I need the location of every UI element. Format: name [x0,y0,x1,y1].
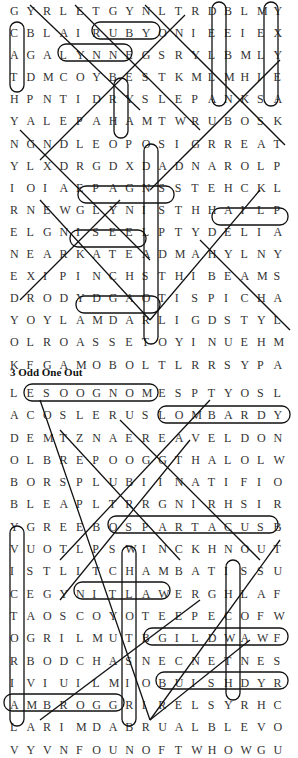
grid-letter: B [125,716,141,738]
grid-letter: O [26,309,42,331]
grid-letter: E [208,650,224,672]
grid-letter: Y [59,583,75,605]
grid-letter: L [10,716,26,738]
grid-letter: K [191,538,207,560]
grid-letter: S [224,309,240,331]
grid-letter: C [175,650,191,672]
grid-letter: Y [224,382,240,404]
grid-letter: H [224,177,240,199]
grid-letter: A [43,44,59,66]
grid-letter: U [241,516,257,538]
grid-letter: I [191,22,207,44]
grid-letter: H [208,243,224,265]
grid-letter: I [224,287,240,309]
grid-letter: I [191,672,207,694]
grid-letter: R [241,404,257,426]
grid-letter: S [59,404,75,426]
grid-letter: I [175,287,191,309]
grid-letter: W [224,627,240,649]
grid-letter: A [109,427,125,449]
grid-letter: G [26,516,42,538]
grid-letter: L [59,309,75,331]
grid-letter: A [208,449,224,471]
grid-letter: A [257,133,273,155]
grid-letter: A [92,243,108,265]
grid-letter: O [76,66,92,88]
grid-letter: O [241,155,257,177]
grid-letter: G [26,133,42,155]
grid-letter: E [224,221,240,243]
grid-letter: A [241,627,257,649]
grid-letter: S [257,560,273,582]
grid-letter: E [158,605,174,627]
grid-letter: R [142,309,158,331]
grid-letter: B [109,354,125,376]
grid-letter: H [125,265,141,287]
grid-letter: T [10,66,26,88]
grid-letter: D [208,627,224,649]
grid-letter: L [76,538,92,560]
grid-letter: Y [257,672,273,694]
grid-letter: P [59,265,75,287]
grid-letter: N [274,427,290,449]
grid-letter: L [92,471,108,493]
grid-letter: E [241,133,257,155]
grid-letter: X [125,155,141,177]
grid-letter: N [43,88,59,110]
grid-letter: O [241,538,257,560]
grid-letter: H [224,583,240,605]
grid-letter: E [125,44,141,66]
grid-letter: I [10,560,26,582]
grid-letter: Y [191,221,207,243]
grid-letter: G [191,133,207,155]
grid-letter: H [208,739,224,758]
grid-letter: C [10,583,26,605]
grid-letter: L [26,221,42,243]
grid-letter: B [125,22,141,44]
grid-letter: E [224,265,240,287]
grid-letter: W [175,110,191,132]
grid-letter: M [92,309,108,331]
grid-letter: M [142,382,158,404]
grid-letter: H [92,650,108,672]
grid-letter: H [109,110,125,132]
grid-letter: A [26,605,42,627]
grid-letter: V [26,672,42,694]
grid-letter: O [224,739,240,758]
grid-letter: P [191,382,207,404]
grid-letter: G [109,694,125,716]
grid-letter: S [142,88,158,110]
grid-letter: V [257,716,273,738]
grid-letter: C [274,694,290,716]
grid-letter: S [43,382,59,404]
grid-letter: Y [92,66,108,88]
grid-letter: T [274,133,290,155]
grid-letter: R [43,0,59,22]
grid-letter: B [109,66,125,88]
grid-letter: R [59,694,75,716]
grid-letter: B [224,110,240,132]
grid-letter: Y [125,0,141,22]
grid-letter: R [43,516,59,538]
grid-letter: L [59,0,75,22]
grid-letter: O [92,605,108,627]
grid-letter: N [92,427,108,449]
grid-letter: L [241,0,257,22]
grid-letter: O [59,331,75,353]
grid-letter: H [208,199,224,221]
grid-letter: P [274,199,290,221]
grid-letter: E [125,331,141,353]
grid-letter: L [241,221,257,243]
grid-letter: O [26,177,42,199]
grid-letter: E [26,427,42,449]
grid-letter: L [142,221,158,243]
grid-letter: T [208,471,224,493]
grid-letter: A [109,177,125,199]
grid-letter: A [76,331,92,353]
grid-letter: D [59,650,75,672]
grid-letter: O [43,605,59,627]
grid-letter: A [10,44,26,66]
grid-letter: R [142,493,158,515]
grid-letter: I [43,672,59,694]
grid-letter: B [10,493,26,515]
